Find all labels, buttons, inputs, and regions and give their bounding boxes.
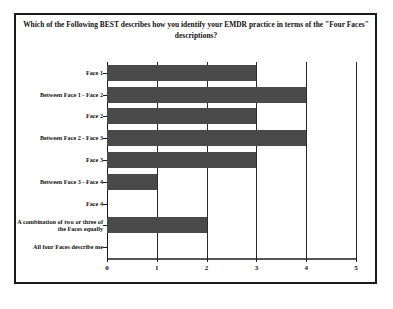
x-tick-4	[306, 258, 307, 262]
bar-row	[107, 236, 356, 258]
bar	[107, 152, 256, 168]
chart-title: Which of the Following BEST describes ho…	[22, 20, 370, 41]
y-tick	[103, 95, 107, 96]
x-tick-5	[356, 258, 357, 262]
bar-row	[107, 214, 356, 236]
y-axis-label: A combination of two or three of the Fac…	[8, 218, 103, 233]
y-axis-label: Face 3	[8, 156, 103, 164]
y-tick	[103, 138, 107, 139]
y-axis-label: Face 2	[8, 112, 103, 120]
x-tick-3	[256, 258, 257, 262]
bar	[107, 174, 157, 190]
x-tick-2	[207, 258, 208, 262]
y-tick	[103, 204, 107, 205]
gridline-x-5	[356, 62, 357, 258]
y-axis-label: Between Face 3 - Face 4	[8, 178, 103, 186]
x-tick-label-1: 1	[147, 264, 167, 272]
y-tick	[103, 73, 107, 74]
chart-figure: Which of the Following BEST describes ho…	[0, 0, 393, 309]
y-axis-label: Face 4	[8, 200, 103, 208]
x-tick-label-0: 0	[97, 264, 117, 272]
bar	[107, 87, 306, 103]
y-tick	[103, 225, 107, 226]
bar-row	[107, 106, 356, 128]
bar-row	[107, 193, 356, 215]
x-axis-line	[107, 258, 356, 260]
x-tick-0	[107, 258, 108, 262]
bar	[107, 65, 256, 81]
y-tick	[103, 247, 107, 248]
bar	[107, 108, 256, 124]
y-axis-category-labels: Face 1Between Face 1 - Face 2Face 2Betwe…	[8, 62, 103, 258]
bar-row	[107, 127, 356, 149]
y-tick	[103, 182, 107, 183]
bar-row	[107, 84, 356, 106]
x-tick-label-3: 3	[246, 264, 266, 272]
y-axis-label: Between Face 1 - Face 2	[8, 91, 103, 99]
bar-row	[107, 171, 356, 193]
y-tick	[103, 116, 107, 117]
x-tick-label-5: 5	[346, 264, 366, 272]
x-tick-label-2: 2	[197, 264, 217, 272]
bar	[107, 217, 207, 233]
y-axis-label: All four Faces describe me	[8, 243, 103, 251]
bar-row	[107, 149, 356, 171]
bar	[107, 130, 306, 146]
x-tick-1	[157, 258, 158, 262]
bar-row	[107, 62, 356, 84]
y-axis-label: Face 1	[8, 69, 103, 77]
y-tick	[103, 160, 107, 161]
plot-area	[107, 62, 356, 258]
y-axis-label: Between Face 2 - Face 3	[8, 134, 103, 142]
x-tick-label-4: 4	[296, 264, 316, 272]
